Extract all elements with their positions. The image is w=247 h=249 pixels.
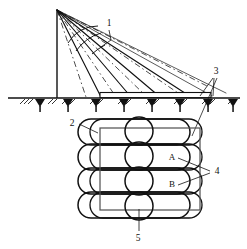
- ray-solid-4: [57, 10, 191, 97]
- lens-3: [125, 167, 153, 195]
- ray-dashed-3: [57, 10, 146, 96]
- stadium-offset-1: [90, 119, 202, 145]
- point-label-a: A: [169, 152, 176, 162]
- support-symbol: [119, 99, 129, 112]
- callout-label-4: 4: [215, 166, 220, 176]
- lens-2: [125, 142, 153, 170]
- callout-label-3: 3: [214, 66, 219, 76]
- support-symbols: [35, 99, 238, 112]
- stadium-row-1: [78, 119, 190, 145]
- callout-label-2: 2: [70, 118, 75, 128]
- support-symbol: [91, 99, 101, 112]
- platform-body: [100, 93, 211, 98]
- callout-label-1: 1: [107, 18, 112, 28]
- ray-dashed-1: [57, 10, 86, 97]
- elevation-view: 1 3: [8, 10, 240, 136]
- support-symbol: [147, 99, 157, 112]
- platform-slab: [100, 93, 211, 98]
- ray-fan-solid: [57, 10, 191, 97]
- callout-label-5: 5: [136, 233, 141, 243]
- leader-callout-2: [79, 124, 98, 133]
- technical-diagram: 1 3: [0, 0, 247, 249]
- support-symbol: [228, 99, 238, 112]
- support-symbol: [175, 99, 185, 112]
- stadium-offset-4: [90, 192, 202, 218]
- stadium-offset-2: [90, 144, 202, 170]
- ray-thin-1: [57, 10, 212, 96]
- plan-view: 2 A B 4 5: [70, 117, 220, 243]
- stadium-row-4: [78, 192, 190, 218]
- support-symbol: [203, 99, 213, 112]
- lens-1: [125, 117, 153, 145]
- support-symbol: [35, 99, 45, 112]
- leader-callout-4: [178, 158, 210, 185]
- point-label-b: B: [169, 179, 175, 189]
- support-symbol: [63, 99, 73, 112]
- stadium-offset-3: [90, 168, 202, 194]
- diagram-canvas: 1 3: [0, 0, 247, 249]
